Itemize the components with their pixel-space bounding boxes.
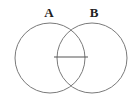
set-b-label: B (90, 5, 99, 20)
venn-diagram: A B (0, 0, 135, 99)
set-b-circle (57, 23, 127, 93)
set-a-label: A (44, 5, 54, 20)
set-a-circle (15, 23, 85, 93)
